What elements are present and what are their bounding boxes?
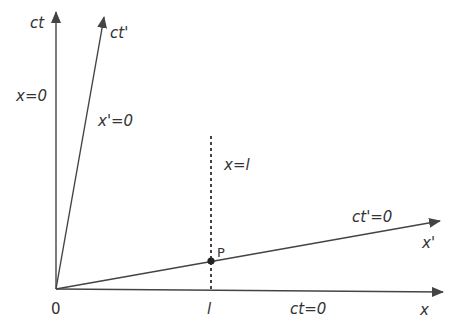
x-axis <box>56 289 443 292</box>
ct-prime-axis <box>56 17 104 289</box>
x-prime-axis-label: x' <box>421 234 435 252</box>
x-equals-l-label: x=l <box>223 156 250 174</box>
point-p <box>207 257 214 264</box>
x-equals-0-label: x=0 <box>15 87 47 105</box>
origin-label: 0 <box>51 300 61 318</box>
x-prime-axis <box>56 221 440 289</box>
x-axis-label: x <box>419 301 429 319</box>
x-prime-equals-0-label: x'=0 <box>97 112 133 130</box>
ct-axis-label: ct <box>30 14 45 32</box>
l-tick-label: l <box>207 300 212 318</box>
point-p-label: P <box>217 245 225 260</box>
ct-equals-0-label: ct=0 <box>290 300 326 318</box>
ct-prime-equals-0-label: ct'=0 <box>352 208 392 226</box>
ct-prime-axis-label: ct' <box>110 24 128 42</box>
spacetime-diagram: ct ct' x=0 x'=0 x=l ct'=0 x' P 0 l ct=0 … <box>0 0 456 328</box>
